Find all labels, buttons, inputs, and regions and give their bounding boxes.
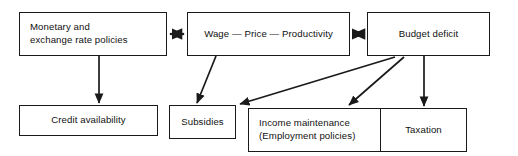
node-income-maintenance[interactable]: Income maintenance (Employment policies) xyxy=(248,108,381,152)
node-subsidies-label: Subsidies xyxy=(181,116,224,129)
node-subsidies[interactable]: Subsidies xyxy=(169,105,236,139)
connector-budget-subsidies xyxy=(240,57,395,104)
node-monetary-label: Monetary and exchange rate policies xyxy=(20,21,166,47)
node-wage-label: Wage — Price — Productivity xyxy=(204,28,333,41)
node-credit-availability[interactable]: Credit availability xyxy=(19,105,158,136)
node-budget-deficit[interactable]: Budget deficit xyxy=(367,12,490,56)
node-wage-price-productivity[interactable]: Wage — Price — Productivity xyxy=(187,12,350,56)
connector-wage-subsidies xyxy=(197,56,216,103)
connector-budget-income xyxy=(349,57,404,105)
node-credit-label: Credit availability xyxy=(51,114,125,127)
node-income-label: Income maintenance (Employment policies) xyxy=(249,117,380,143)
node-budget-label: Budget deficit xyxy=(399,28,459,41)
node-taxation[interactable]: Taxation xyxy=(380,108,467,152)
node-monetary-and-exchange-rate-policies[interactable]: Monetary and exchange rate policies xyxy=(19,12,167,56)
node-taxation-label: Taxation xyxy=(405,124,442,137)
diagram-canvas: Monetary and exchange rate policies Wage… xyxy=(0,0,518,156)
